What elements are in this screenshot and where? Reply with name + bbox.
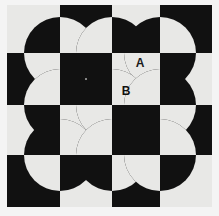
board-dark-pattern <box>0 0 219 216</box>
region-label-a: A <box>136 56 145 70</box>
figure-container: A B C <box>0 0 219 216</box>
region-label-b: B <box>122 84 131 98</box>
checkerboard-circles-figure: A B C <box>0 0 219 216</box>
region-label-c: C <box>142 134 151 148</box>
